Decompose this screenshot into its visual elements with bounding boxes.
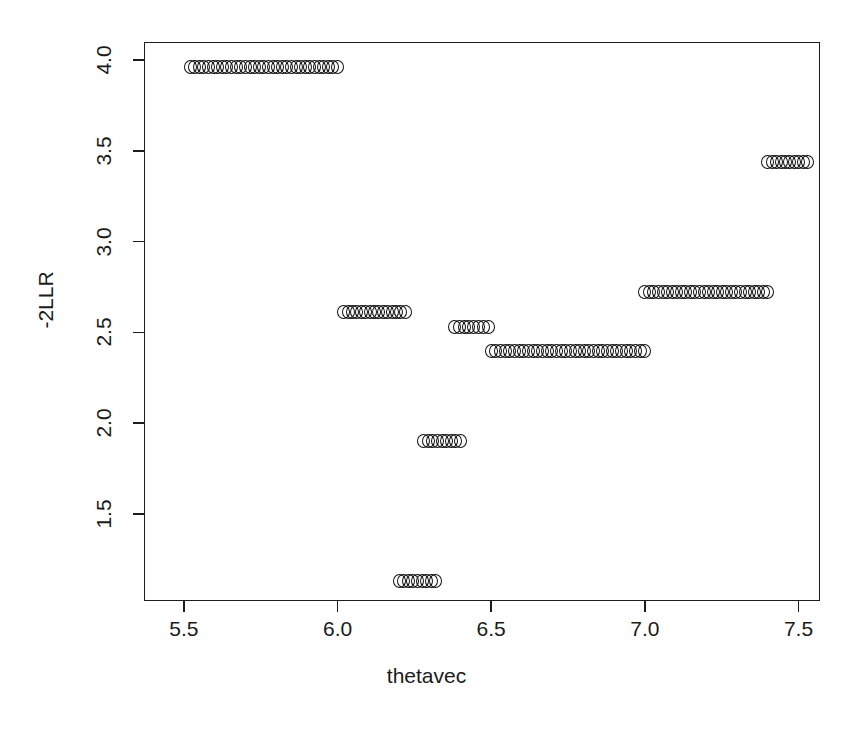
y-axis-label: -2LLR bbox=[34, 271, 58, 328]
x-axis-label: thetavec bbox=[0, 664, 853, 688]
x-tick-mark bbox=[490, 601, 492, 612]
y-tick-mark bbox=[133, 422, 144, 424]
x-tick-mark bbox=[644, 601, 646, 612]
plot-area bbox=[144, 42, 820, 601]
data-point bbox=[399, 305, 412, 319]
x-tick-label: 7.5 bbox=[784, 617, 813, 641]
y-tick-label: 4.0 bbox=[92, 46, 116, 75]
y-tick-mark bbox=[133, 150, 144, 152]
y-tick-label: 2.0 bbox=[92, 409, 116, 438]
x-tick-label: 6.0 bbox=[323, 617, 352, 641]
data-point bbox=[331, 60, 344, 74]
data-point bbox=[454, 434, 467, 448]
x-tick-mark bbox=[337, 601, 339, 612]
y-tick-label: 3.0 bbox=[92, 227, 116, 256]
y-tick-mark bbox=[133, 513, 144, 515]
data-point bbox=[761, 285, 774, 299]
data-point bbox=[429, 574, 442, 588]
x-tick-label: 6.5 bbox=[477, 617, 506, 641]
data-point bbox=[638, 344, 651, 358]
y-tick-label: 1.5 bbox=[92, 499, 116, 528]
chart-canvas: 5.56.06.57.07.5 1.52.02.53.03.54.0 theta… bbox=[0, 0, 853, 732]
y-tick-mark bbox=[133, 59, 144, 61]
y-tick-mark bbox=[133, 241, 144, 243]
x-tick-label: 7.0 bbox=[630, 617, 659, 641]
x-tick-mark bbox=[183, 601, 185, 612]
data-point bbox=[801, 155, 814, 169]
chart-title bbox=[0, 0, 853, 2]
y-tick-mark bbox=[133, 332, 144, 334]
x-tick-mark bbox=[798, 601, 800, 612]
y-tick-label: 2.5 bbox=[92, 318, 116, 347]
y-tick-label: 3.5 bbox=[92, 136, 116, 165]
x-tick-label: 5.5 bbox=[169, 617, 198, 641]
data-point bbox=[482, 320, 495, 334]
